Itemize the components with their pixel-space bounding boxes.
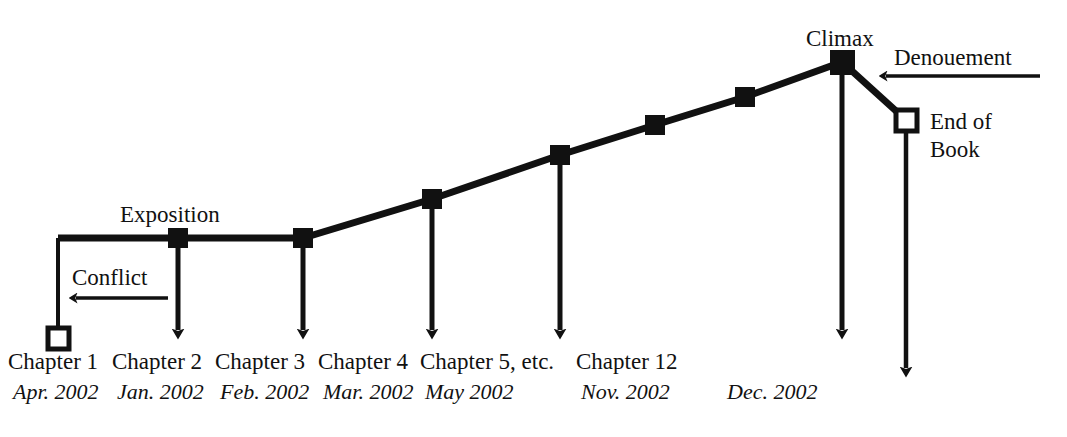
- plot-markers-filled: [168, 50, 855, 248]
- marker-ch1-open-square: [48, 328, 69, 349]
- stage-label-denouement: Denouement: [894, 46, 1012, 70]
- stage-label-climax: Climax: [806, 27, 874, 51]
- marker-climax: [830, 50, 855, 75]
- date-label-ch12: Nov. 2002: [581, 380, 670, 403]
- date-label-ch3: Feb. 2002: [220, 380, 309, 403]
- chapter-label-ch1: Chapter 1: [8, 350, 98, 374]
- date-label-ch5: May 2002: [425, 380, 514, 403]
- marker-ch2: [168, 228, 188, 248]
- chapter-label-ch4: Chapter 4: [318, 350, 408, 374]
- marker-ch3: [293, 228, 313, 248]
- marker-ch5: [550, 145, 570, 165]
- stage-label-end-of-book: End of Book: [930, 108, 1040, 164]
- chapter-label-ch5: Chapter 5, etc.: [420, 350, 554, 374]
- date-label-end-of-book: Dec. 2002: [727, 380, 817, 403]
- chapter-label-ch2: Chapter 2: [112, 350, 202, 374]
- marker-end-of-book-open-square: [896, 110, 917, 131]
- date-label-ch2: Jan. 2002: [117, 380, 204, 403]
- stage-label-conflict: Conflict: [72, 266, 147, 290]
- date-label-ch1: Apr. 2002: [13, 380, 99, 403]
- marker-node-b: [735, 87, 755, 107]
- stage-label-exposition: Exposition: [120, 203, 220, 227]
- chapter-drop-arrows: [178, 68, 906, 368]
- chapter-label-ch3: Chapter 3: [215, 350, 305, 374]
- date-label-ch4: Mar. 2002: [323, 380, 413, 403]
- marker-ch4: [422, 189, 442, 209]
- plot-diagram: Exposition Conflict Climax Denouement En…: [0, 0, 1067, 437]
- chapter-label-ch12: Chapter 12: [576, 350, 678, 374]
- marker-node-a: [645, 115, 665, 135]
